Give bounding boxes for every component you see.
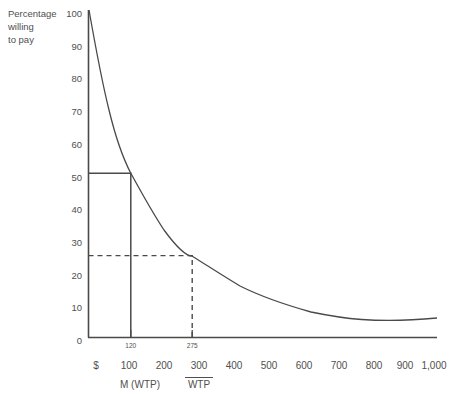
y-tick-label: 40 bbox=[71, 204, 82, 215]
y-tick-label: 10 bbox=[71, 302, 82, 313]
x-tick-label: $ bbox=[93, 360, 99, 371]
y-tick-label: 50 bbox=[71, 172, 82, 183]
demand-curve bbox=[89, 10, 437, 320]
y-tick-label: 90 bbox=[71, 41, 82, 52]
x-tick-label: 100 bbox=[121, 360, 138, 371]
x-tick-label: 500 bbox=[261, 360, 278, 371]
median-wtp-label: M (WTP) bbox=[120, 379, 160, 390]
x-tick-label: 200 bbox=[156, 360, 173, 371]
y-tick-label: 0 bbox=[77, 335, 82, 346]
mean-wtp-label: WTP bbox=[188, 379, 211, 390]
x-tick-label: 600 bbox=[296, 360, 313, 371]
y-tick-labels: 100 90 80 70 60 50 40 30 20 10 0 bbox=[66, 8, 82, 346]
y-axis-title-line2: willing bbox=[7, 21, 34, 32]
y-tick-label: 20 bbox=[71, 270, 82, 281]
x-tick-label: 400 bbox=[226, 360, 243, 371]
marker-label-120: 120 bbox=[125, 342, 136, 349]
x-tick-labels: $ 100 200 300 400 500 600 700 800 900 1,… bbox=[93, 360, 447, 371]
y-axis-title-line1: Percentage bbox=[8, 8, 57, 19]
y-tick-label: 30 bbox=[71, 237, 82, 248]
x-tick-label: 1,000 bbox=[421, 360, 446, 371]
y-tick-label: 60 bbox=[71, 139, 82, 150]
marker-label-275: 275 bbox=[187, 342, 198, 349]
x-tick-label: 700 bbox=[331, 360, 348, 371]
y-tick-label: 80 bbox=[71, 73, 82, 84]
mean-wtp-guide bbox=[89, 256, 193, 338]
chart-container: Percentage willing to pay 100 90 80 70 6… bbox=[0, 0, 449, 394]
y-axis-title-line3: to pay bbox=[8, 34, 34, 45]
chart-svg: Percentage willing to pay 100 90 80 70 6… bbox=[0, 0, 449, 394]
y-tick-label: 100 bbox=[66, 8, 82, 19]
x-tick-label: 800 bbox=[366, 360, 383, 371]
x-tick-label: 900 bbox=[397, 360, 414, 371]
x-tick-label: 300 bbox=[191, 360, 208, 371]
y-tick-label: 70 bbox=[71, 106, 82, 117]
